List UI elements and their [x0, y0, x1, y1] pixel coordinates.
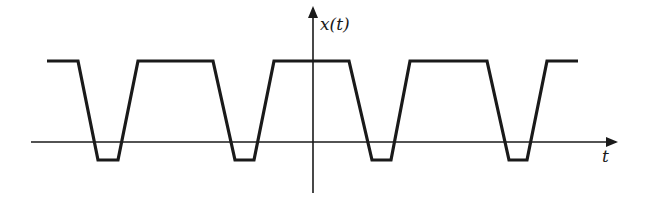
y-axis-label: x(t)	[320, 14, 350, 34]
x-axis-label: t	[602, 146, 609, 166]
waveform-diagram: x(t) t	[0, 0, 646, 197]
